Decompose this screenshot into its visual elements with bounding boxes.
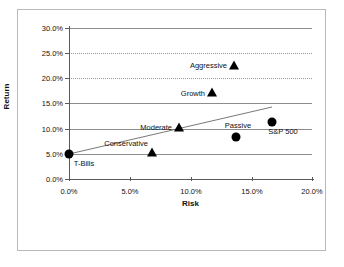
data-label-moderate: Moderate [140,123,172,132]
data-label-aggressive: Aggressive [190,61,227,70]
x-tick-label-5: 5.0% [108,187,152,196]
x-tick-5 [130,177,131,181]
x-tick-label-10: 10.0% [169,187,213,196]
data-label-sp500: S&P 500 [268,127,297,136]
x-tick-label-0: 0.0% [47,187,91,196]
chart-figure: 30.0% 25.0% 20.0% 15.0% 10.0% 5.0% 0.0% … [0,0,344,267]
y-tick-label-25: 25.0% [19,49,63,58]
data-point-t-bills[interactable] [65,150,74,159]
gridline-5 [69,154,312,155]
data-label-growth: Growth [181,89,205,98]
x-tick-20 [312,177,313,181]
gridline-20 [69,78,312,79]
gridline-25 [69,53,312,54]
x-tick-label-15: 15.0% [230,187,274,196]
data-point-moderate[interactable] [174,123,184,132]
data-point-growth[interactable] [207,88,217,97]
data-label-passive: Passive [225,121,251,130]
data-point-passive[interactable] [232,133,241,142]
x-tick-label-20: 20.0% [290,187,334,196]
y-tick-label-0: 0.0% [19,175,63,184]
x-tick-10 [191,177,192,181]
y-tick-10 [65,129,69,130]
y-axis-title: Return [2,84,11,110]
data-point-conservative[interactable] [147,148,157,157]
data-point-aggressive[interactable] [229,61,239,70]
data-label-conservative: Conservative [104,139,148,148]
y-tick-label-10: 10.0% [19,125,63,134]
y-tick-label-20: 20.0% [19,74,63,83]
y-tick-label-15: 15.0% [19,99,63,108]
x-tick-15 [252,177,253,181]
x-axis-title: Risk [69,199,312,208]
data-point-sp500[interactable] [268,118,277,127]
data-label-t-bills: T-Bills [74,159,94,168]
y-tick-30 [65,28,69,29]
gridline-30 [69,28,312,29]
y-tick-25 [65,53,69,54]
y-tick-label-30: 30.0% [19,24,63,33]
plot-area [69,28,312,179]
y-tick-label-5: 5.0% [19,150,63,159]
gridline-15 [69,103,312,104]
x-tick-0 [69,177,70,181]
y-tick-15 [65,103,69,104]
y-tick-20 [65,78,69,79]
